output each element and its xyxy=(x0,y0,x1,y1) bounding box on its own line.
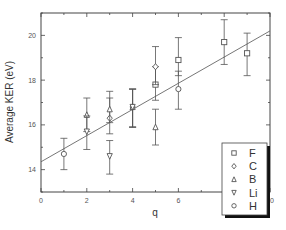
x-tick-label: 2 xyxy=(85,197,89,204)
y-tick-label: 20 xyxy=(28,32,36,39)
square-marker-icon xyxy=(222,39,227,44)
legend-box xyxy=(222,143,267,215)
ker-vs-q-chart: 024681014161820FCBLiH Average KER (eV) q xyxy=(0,0,286,230)
square-marker-icon xyxy=(232,151,236,155)
x-axis-title: q xyxy=(152,207,158,218)
square-marker-icon xyxy=(245,51,250,56)
series-b xyxy=(83,89,159,145)
y-tick-label: 14 xyxy=(28,166,36,173)
y-axis-title: Average KER (eV) xyxy=(4,61,15,143)
x-tick-label: 0 xyxy=(39,197,43,204)
triangle-down-marker-icon xyxy=(107,154,112,160)
diamond-marker-icon xyxy=(153,64,158,70)
series-f xyxy=(152,20,251,101)
legend-label: Li xyxy=(249,187,258,199)
triangle-up-marker-icon xyxy=(107,106,112,112)
triangle-up-marker-icon xyxy=(153,124,158,130)
circle-marker-icon xyxy=(232,204,236,208)
legend-label: C xyxy=(249,160,257,172)
legend-label: F xyxy=(249,147,256,159)
series-h xyxy=(60,71,181,169)
legend-label: B xyxy=(249,173,256,185)
y-tick-label: 16 xyxy=(28,121,36,128)
plot-area: 024681014161820FCBLiH xyxy=(28,13,274,218)
y-tick-label: 18 xyxy=(28,77,36,84)
x-tick-label: 4 xyxy=(131,197,135,204)
circle-marker-icon xyxy=(176,86,181,91)
x-tick-label: 6 xyxy=(176,197,180,204)
square-marker-icon xyxy=(176,57,181,62)
circle-marker-icon xyxy=(61,151,66,156)
legend-label: H xyxy=(249,200,257,212)
legend: FCBLiH xyxy=(222,143,270,218)
